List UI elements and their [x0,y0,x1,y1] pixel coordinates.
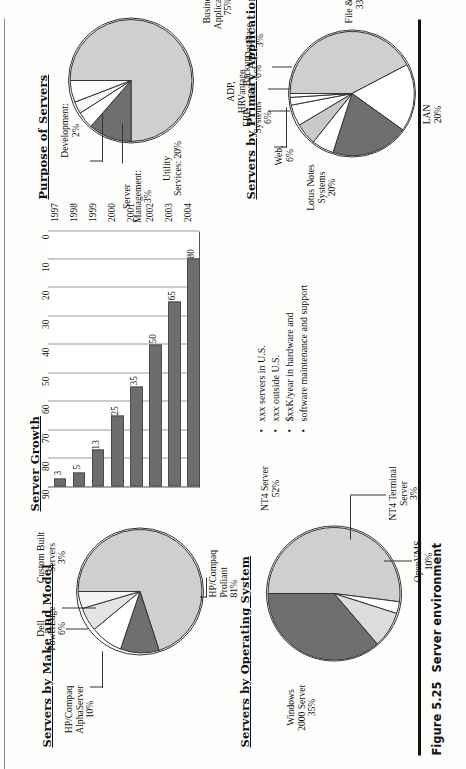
ytick-0: 0 [41,234,51,260]
rotated-page: Servers by Make and Model HP/Compaq Alph… [0,0,466,769]
label-server-management: Server Management: 3% [122,159,154,233]
xtick-1997: 1997 [50,197,60,227]
ytick-60: 60 [41,404,51,430]
ytick-40: 40 [41,347,51,373]
bullet-item-1: xxx servers in U.S. [255,243,268,421]
bullet-item-3-cont: software maintenance and support [297,243,310,421]
chart-servers-by-make-and-model: Servers by Make and Model HP/Compaq Alph… [40,497,230,747]
leader-development [102,113,103,161]
label-development: Development: 2% [60,87,81,173]
label-utility-services: Utility Services: 20% [162,133,183,203]
ytick-50: 50 [41,376,51,402]
bar-2003 [168,301,181,486]
value-2001: 35 [129,376,139,385]
bar-2004 [187,258,200,486]
leader-database [272,66,292,67]
xtick-2000: 2000 [107,197,117,227]
xtick-2004: 2004 [183,197,193,227]
figure-caption: Figure 5.25Server environment [430,543,444,755]
chart-title-purpose: Purpose of Servers [36,74,50,199]
pie-operating-system [266,525,402,661]
label-nt4-server: NT4 Server 52% [260,453,281,523]
label-web: Web, 6% [274,133,295,177]
bar-1998 [73,472,85,486]
label-hp-compaq-alphaserver: HP/Compaq AlphaServer 10% [64,667,96,751]
chart-title-operating-system: Servers by Operating System [238,555,252,747]
pie-make-model [76,527,204,655]
ytick-30: 30 [41,319,51,345]
leader-development-stem [90,160,103,161]
value-1997: 3 [53,470,63,475]
ytick-20: 20 [41,290,51,316]
value-2004: 80 [186,249,196,258]
bar-2002 [149,344,162,486]
chart-purpose-of-servers: Purpose of Servers Development: 2% Serve… [36,9,236,199]
bar-1999 [92,449,104,486]
pie-purpose [68,17,194,143]
pie-primary-application [288,29,416,157]
leader-proliant-stem [200,596,207,597]
figure-number: Figure 5.25 [430,681,444,755]
bullet-item-2: xxx outside U.S. [269,243,282,421]
label-dell-poweredge: Dell PowerEdge 6% [36,593,68,663]
leader-poweredge [66,628,88,629]
leader-nt4-terminal-stem [350,494,386,495]
bar-2001 [130,386,143,486]
ytick-90: 90 [41,489,51,515]
value-1998: 5 [72,464,82,469]
ytick-70: 70 [41,433,51,459]
value-2002: 50 [148,334,158,343]
chart-title-server-growth: Server Growth [28,416,42,511]
pie-svg-primary-application [289,30,415,156]
bullet-item-3: $xxK/year in hardware and [283,243,296,421]
leader-nt4-terminal [350,495,351,539]
bar-1997 [54,478,66,486]
plot-area-server-growth [48,231,200,487]
ytick-10: 10 [41,262,51,288]
bullet-list: xxx servers in U.S. xxx outside U.S. $xx… [255,243,311,433]
chart-servers-by-operating-system: Servers by Operating System Windows 2000… [238,477,438,747]
label-file-and-print: File & Print 33% [344,0,365,31]
label-lotus-notes-systems: Lotus Notes Systems 20% [306,149,338,225]
xtick-1999: 1999 [88,197,98,227]
label-hp-compaq-proliant: HP/Compaq Proliant 81% [208,515,240,597]
chart-server-growth: Server Growth 90 80 70 60 50 [28,211,233,511]
label-nt4-terminal-server: NT4 Terminal Server 3% [388,453,420,533]
figure-caption-text: Server environment [430,543,444,672]
pie-svg-make-model [77,528,203,654]
value-2003: 65 [167,291,177,300]
pie-svg-purpose [69,18,193,142]
label-database: Database 3% [244,11,265,69]
label-windows-2000-server: Windows 2000 Server 35% [286,661,318,753]
value-2000: 25 [110,406,120,415]
caption-rule [418,19,421,755]
bar-2000 [111,415,124,486]
leader-server-mgmt [122,123,123,163]
chart-servers-by-primary-application: Servers by Primary Application [244,0,454,199]
leader-openvms [384,560,412,561]
leader-alphaserver [102,651,103,687]
page-top-rule [4,18,5,769]
label-lan: LAN 20% [422,91,443,137]
label-business-application: Business Application 75% [202,0,234,49]
value-1999: 13 [91,440,101,449]
ytick-80: 80 [41,461,51,487]
label-custom-built-servers: Custom Built Servers 3% [36,515,68,599]
pie-svg-operating-system [267,526,401,660]
xtick-1998: 1998 [69,197,79,227]
